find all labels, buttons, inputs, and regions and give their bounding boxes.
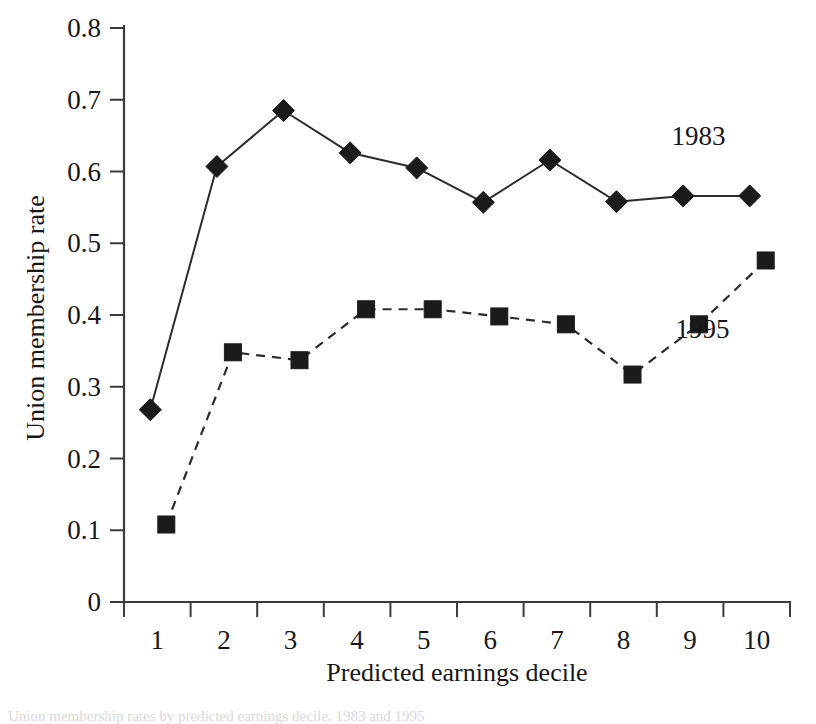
series-annotation-1983: 1983 (671, 121, 725, 151)
y-tick-label: 0.7 (67, 85, 101, 115)
x-axis-ticks: 12345678910 (124, 602, 790, 655)
marker-1983-5 (406, 157, 428, 179)
y-tick-label: 0.3 (67, 372, 101, 402)
marker-1983-1 (139, 399, 161, 421)
x-tick-label: 7 (550, 625, 564, 655)
y-tick-label: 0 (88, 587, 102, 617)
x-tick-label: 6 (484, 625, 498, 655)
x-tick-label: 5 (417, 625, 431, 655)
marker-1983-7 (539, 149, 561, 171)
marker-1995-7 (557, 316, 574, 333)
marker-1983-10 (739, 185, 761, 207)
x-tick-label: 4 (350, 625, 364, 655)
y-tick-label: 0.6 (67, 157, 101, 187)
marker-1995-4 (358, 301, 375, 318)
x-tick-label: 8 (617, 625, 631, 655)
figure-caption: Union membership rates by predicted earn… (8, 706, 808, 724)
marker-1983-9 (672, 185, 694, 207)
x-tick-label: 2 (217, 625, 231, 655)
series-line-1995 (166, 260, 765, 524)
series-line-1983 (150, 111, 749, 410)
series-annotation-1995: 1995 (675, 314, 729, 344)
y-tick-label: 0.8 (67, 13, 101, 43)
marker-1983-4 (339, 142, 361, 164)
marker-1983-8 (606, 191, 628, 213)
y-tick-label: 0.5 (67, 228, 101, 258)
union-membership-line-chart: 00.10.20.30.40.50.60.70.8 12345678910 19… (0, 0, 816, 724)
x-tick-label: 3 (284, 625, 298, 655)
y-tick-label: 0.1 (67, 515, 101, 545)
marker-1995-2 (224, 344, 241, 361)
y-axis-title: Union membership rate (21, 195, 50, 441)
x-tick-label: 9 (683, 625, 697, 655)
marker-1995-3 (291, 352, 308, 369)
marker-1995-10 (757, 252, 774, 269)
marker-1995-8 (624, 366, 641, 383)
series-annotations: 19831995 (671, 121, 729, 344)
marker-1995-1 (158, 516, 175, 533)
marker-1983-6 (472, 191, 494, 213)
x-tick-label: 10 (743, 625, 770, 655)
marker-1995-6 (491, 308, 508, 325)
marker-1995-5 (424, 301, 441, 318)
y-tick-label: 0.4 (67, 300, 101, 330)
y-axis-ticks: 00.10.20.30.40.50.60.70.8 (67, 13, 124, 617)
figure-container: 00.10.20.30.40.50.60.70.8 12345678910 19… (0, 0, 816, 724)
y-tick-label: 0.2 (67, 444, 101, 474)
x-tick-label: 1 (151, 625, 165, 655)
x-axis-title: Predicted earnings decile (326, 658, 587, 687)
